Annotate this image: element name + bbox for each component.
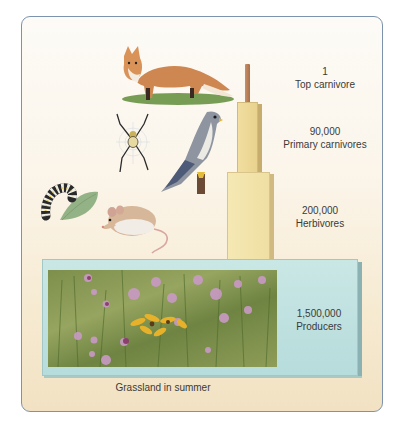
label-herbivores: 200,000 Herbivores [280, 205, 360, 230]
bar-primary-carnivores [237, 102, 258, 173]
fox-icon [118, 44, 236, 106]
bar-herbivores [227, 172, 270, 261]
spider-icon [112, 112, 154, 178]
falcon-icon [155, 108, 227, 198]
label-primary-carnivores: 90,000 Primary carnivores [270, 126, 380, 151]
name-top-carnivore: Top carnivore [285, 79, 365, 92]
slab-producers-side [358, 262, 362, 376]
figure-caption: Grassland in summer [100, 382, 226, 395]
slab-producers-bottom [44, 376, 362, 378]
bar-top-carnivore [245, 64, 250, 104]
bar-herbivores-side [270, 174, 274, 261]
count-producers: 1,500,000 [282, 308, 356, 321]
name-producers: Producers [282, 321, 356, 334]
name-primary-carnivores: Primary carnivores [270, 139, 380, 152]
count-top-carnivore: 1 [285, 66, 365, 79]
count-primary-carnivores: 90,000 [270, 126, 380, 139]
mouse-icon [100, 195, 175, 255]
label-producers: 1,500,000 Producers [282, 308, 356, 333]
label-top-carnivore: 1 Top carnivore [285, 66, 365, 91]
caterpillar-icon [40, 180, 100, 226]
name-herbivores: Herbivores [280, 218, 360, 231]
bar-primary-carnivores-side [258, 104, 262, 173]
grassland-photo [48, 270, 277, 367]
count-herbivores: 200,000 [280, 205, 360, 218]
